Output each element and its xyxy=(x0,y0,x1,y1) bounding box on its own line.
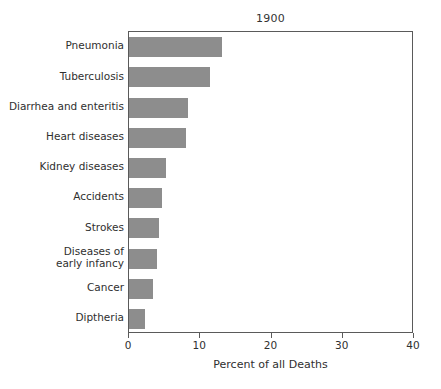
category-label-line: Accidents xyxy=(0,191,124,203)
bar xyxy=(129,279,153,299)
category-label-line: early infancy xyxy=(0,258,124,270)
x-tick-mark xyxy=(413,333,414,338)
x-tick-label: 10 xyxy=(193,339,206,351)
bar xyxy=(129,98,188,118)
category-label: Heart diseases xyxy=(0,131,124,143)
category-label-line: Pneumonia xyxy=(0,40,124,52)
bar xyxy=(129,37,222,57)
category-label: Tuberculosis xyxy=(0,71,124,83)
category-label-line: Cancer xyxy=(0,282,124,294)
x-tick-label: 40 xyxy=(406,339,419,351)
category-label: Cancer xyxy=(0,282,124,294)
category-axis-labels: PneumoniaTuberculosisDiarrhea and enteri… xyxy=(0,31,124,333)
category-label: Diarrhea and enteritis xyxy=(0,101,124,113)
category-label-line: Heart diseases xyxy=(0,131,124,143)
category-label-line: Tuberculosis xyxy=(0,71,124,83)
category-label: Diptheria xyxy=(0,312,124,324)
category-label-line: Diarrhea and enteritis xyxy=(0,101,124,113)
x-tick-mark xyxy=(342,333,343,338)
bar xyxy=(129,218,159,238)
x-axis-title: Percent of all Deaths xyxy=(128,358,413,371)
bar xyxy=(129,158,166,178)
category-label-line: Strokes xyxy=(0,222,124,234)
plot-area xyxy=(128,31,413,333)
chart-figure: 1900 PneumoniaTuberculosisDiarrhea and e… xyxy=(0,0,441,389)
bar xyxy=(129,128,186,148)
category-label: Pneumonia xyxy=(0,40,124,52)
category-label-line: Diseases of xyxy=(0,246,124,258)
bars-layer xyxy=(129,32,412,332)
x-tick-label: 30 xyxy=(335,339,348,351)
chart-title: 1900 xyxy=(128,12,413,25)
category-label: Kidney diseases xyxy=(0,161,124,173)
x-tick-mark xyxy=(128,333,129,338)
bar xyxy=(129,309,145,329)
bar xyxy=(129,67,210,87)
x-axis: 010203040 xyxy=(128,333,413,361)
x-tick-label: 20 xyxy=(264,339,277,351)
category-label: Strokes xyxy=(0,222,124,234)
category-label: Accidents xyxy=(0,191,124,203)
category-label: Diseases ofearly infancy xyxy=(0,246,124,269)
bar xyxy=(129,188,162,208)
x-tick-mark xyxy=(271,333,272,338)
bar xyxy=(129,249,157,269)
x-tick-mark xyxy=(199,333,200,338)
x-tick-label: 0 xyxy=(125,339,132,351)
category-label-line: Diptheria xyxy=(0,312,124,324)
category-label-line: Kidney diseases xyxy=(0,161,124,173)
